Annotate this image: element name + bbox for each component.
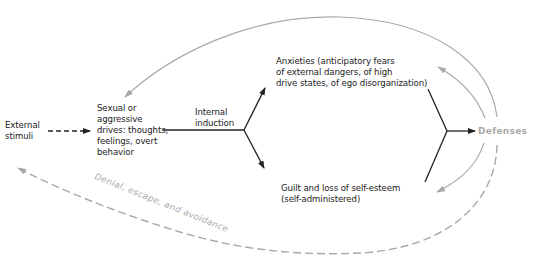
guilt-node: Guilt and loss of self-esteem (self-admi… (281, 183, 400, 205)
denial-escape-avoidance-arc (18, 145, 497, 254)
junction-to-anxieties-arrow (244, 88, 265, 130)
defenses-to-anxieties-arc (438, 67, 485, 118)
anxiety-defense-diagram (0, 0, 535, 267)
defenses-to-guilt-arc (437, 143, 484, 192)
guilt-to-junction-line (425, 131, 447, 182)
anxieties-node: Anxieties (anticipatory fears of externa… (276, 56, 427, 89)
drives-node: Sexual or aggressive drives: thoughts, f… (97, 103, 168, 158)
defenses-node: Defenses (478, 126, 527, 137)
anxieties-to-junction-line (428, 89, 447, 131)
internal-induction-label: Internal induction (195, 107, 234, 129)
junction-to-guilt-arrow (244, 130, 264, 168)
external-stimuli-node: External stimuli (5, 120, 40, 142)
